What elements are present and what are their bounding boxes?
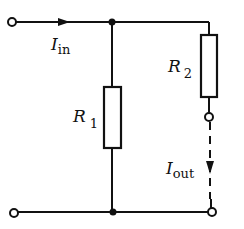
junction-top (109, 19, 116, 26)
resistor-r1 (104, 87, 121, 148)
terminal-top-left (8, 18, 16, 26)
i-out-arrow-icon (206, 161, 214, 174)
terminal-bottom-right (208, 208, 216, 216)
i-in-arrow-icon (58, 18, 70, 26)
current-divider-circuit: Iin R1 R2 Iout (0, 0, 244, 229)
terminal-r2-output (205, 113, 213, 121)
label-r1: R1 (72, 106, 98, 131)
label-i-in: Iin (50, 34, 71, 57)
terminal-bottom-left (10, 209, 18, 217)
resistor-r2 (201, 35, 217, 97)
junction-bottom (110, 209, 117, 216)
label-r2: R2 (167, 56, 192, 81)
label-i-out: Iout (165, 158, 195, 181)
